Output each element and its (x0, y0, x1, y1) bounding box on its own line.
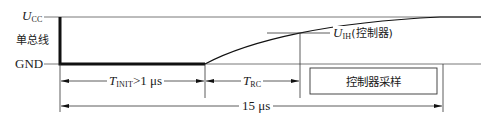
uih-subscript: IH (342, 32, 351, 41)
uih-symbol: U (333, 25, 342, 40)
arrow-left-icon (61, 104, 69, 108)
controller-sample-label: 控制器采样 (310, 68, 437, 94)
bus-label: 单总线 (16, 34, 49, 48)
ucc-subscript: CC (31, 15, 42, 24)
ucc-label: UCC (22, 9, 42, 27)
tinit-label: TINIT>1 μs (107, 74, 164, 92)
arrow-right-icon (196, 79, 204, 83)
trc-subscript: RC (250, 80, 261, 89)
arrow-right-icon (434, 104, 442, 108)
total-duration-label: 15 μs (239, 99, 273, 113)
uih-label: UIH(控制器) (333, 26, 393, 44)
tinit-suffix: >1 μs (133, 73, 162, 88)
trc-label: TRC (241, 74, 263, 92)
gnd-label: GND (15, 57, 43, 71)
tinit-subscript: INIT (116, 80, 133, 89)
arrow-left-icon (206, 79, 214, 83)
arrow-right-icon (291, 79, 299, 83)
bus-signal-low-pulse (60, 17, 205, 64)
ucc-symbol: U (22, 8, 31, 23)
uih-suffix: (控制器) (351, 27, 393, 40)
arrow-left-icon (61, 79, 69, 83)
